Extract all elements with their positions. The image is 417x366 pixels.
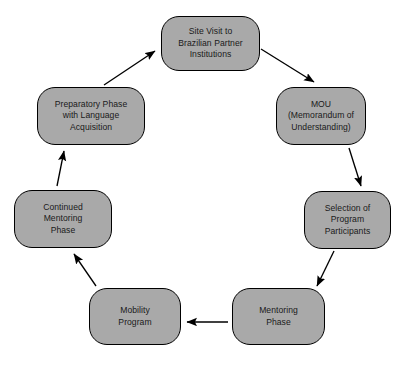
node-mentoring-phase[interactable]: Mentoring Phase xyxy=(232,288,325,345)
node-mou[interactable]: MOU (Memorandum of Understanding) xyxy=(276,87,366,145)
arrow-mobility-program-to-continued-mentoring xyxy=(74,254,96,286)
arrow-site-visit-to-mou xyxy=(261,49,314,82)
cycle-diagram: Site Visit to Brazilian Partner Institut… xyxy=(0,0,417,366)
node-preparatory-phase-label: Preparatory Phase with Language Acquisit… xyxy=(51,99,132,133)
node-continued-mentoring[interactable]: Continued Mentoring Phase xyxy=(14,190,112,248)
arrow-mou-to-selection xyxy=(349,148,361,186)
node-mentoring-phase-label: Mentoring Phase xyxy=(255,305,302,328)
node-selection-label: Selection of Program Participants xyxy=(321,203,375,237)
arrow-selection-to-mentoring-phase xyxy=(317,251,334,286)
node-continued-mentoring-label: Continued Mentoring Phase xyxy=(39,202,87,236)
arrow-continued-mentoring-to-preparatory-phase xyxy=(57,151,64,186)
node-site-visit-label: Site Visit to Brazilian Partner Institut… xyxy=(174,26,246,60)
node-mou-label: MOU (Memorandum of Understanding) xyxy=(284,99,358,133)
arrow-preparatory-phase-to-site-visit xyxy=(104,51,155,85)
node-preparatory-phase[interactable]: Preparatory Phase with Language Acquisit… xyxy=(37,87,145,145)
node-mobility-program[interactable]: Mobility Program xyxy=(89,288,181,345)
node-mobility-program-label: Mobility Program xyxy=(114,305,155,328)
node-selection[interactable]: Selection of Program Participants xyxy=(304,191,391,249)
node-site-visit[interactable]: Site Visit to Brazilian Partner Institut… xyxy=(161,16,260,71)
